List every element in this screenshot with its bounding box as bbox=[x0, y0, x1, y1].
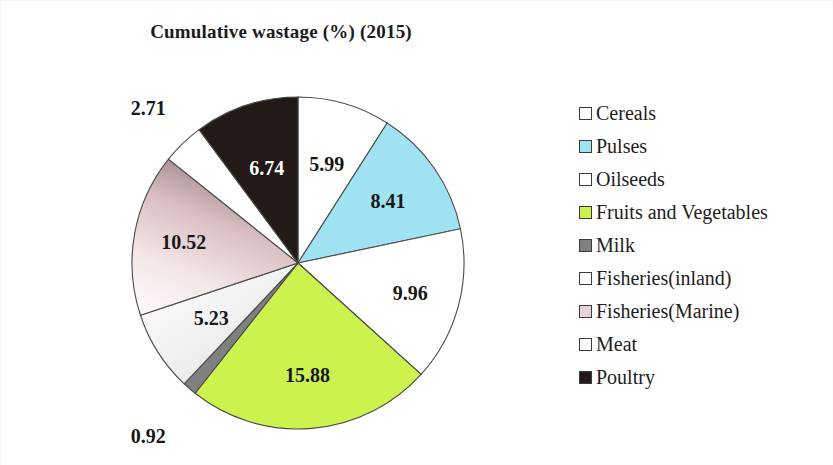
pie-svg bbox=[1, 61, 567, 461]
legend-label: Oilseeds bbox=[596, 163, 665, 196]
legend-item[interactable]: Poultry bbox=[579, 361, 831, 394]
pie-slice-value-label: 0.92 bbox=[131, 425, 166, 448]
legend-item[interactable]: Fruits and Vegetables bbox=[579, 196, 831, 229]
chart-title: Cumulative wastage (%) (2015) bbox=[1, 21, 561, 43]
legend-label: Fisheries(Marine) bbox=[596, 295, 739, 328]
pie-slice-value-label: 5.99 bbox=[309, 153, 344, 176]
legend-label: Cereals bbox=[596, 97, 656, 130]
pie-slice-value-label: 15.88 bbox=[285, 364, 330, 387]
legend-item[interactable]: Cereals bbox=[579, 97, 831, 130]
legend-item[interactable]: Milk bbox=[579, 229, 831, 262]
pie-chart: 5.998.419.9615.880.925.2310.522.716.74 bbox=[1, 61, 567, 461]
legend-swatch-icon bbox=[579, 338, 592, 351]
legend-swatch-icon bbox=[579, 272, 592, 285]
legend-label: Milk bbox=[596, 229, 635, 262]
legend-item[interactable]: Fisheries(inland) bbox=[579, 262, 831, 295]
legend-swatch-icon bbox=[579, 305, 592, 318]
legend-swatch-icon bbox=[579, 371, 592, 384]
legend-swatch-icon bbox=[579, 239, 592, 252]
pie-slice-value-label: 10.52 bbox=[161, 231, 206, 254]
legend-swatch-icon bbox=[579, 173, 592, 186]
legend-swatch-icon bbox=[579, 140, 592, 153]
legend-item[interactable]: Meat bbox=[579, 328, 831, 361]
legend-label: Meat bbox=[596, 328, 637, 361]
legend-item[interactable]: Fisheries(Marine) bbox=[579, 295, 831, 328]
pie-slice-value-label: 5.23 bbox=[194, 307, 229, 330]
legend-item[interactable]: Oilseeds bbox=[579, 163, 831, 196]
legend-label: Poultry bbox=[596, 361, 655, 394]
pie-slice-value-label: 2.71 bbox=[131, 96, 166, 119]
pie-slice-value-label: 9.96 bbox=[393, 282, 428, 305]
legend-swatch-icon bbox=[579, 206, 592, 219]
pie-slice-value-label: 8.41 bbox=[371, 189, 406, 212]
legend-label: Fisheries(inland) bbox=[596, 262, 732, 295]
legend-item[interactable]: Pulses bbox=[579, 130, 831, 163]
legend-label: Fruits and Vegetables bbox=[596, 196, 768, 229]
legend-label: Pulses bbox=[596, 130, 647, 163]
chart-figure: Cumulative wastage (%) (2015) 5.998.419.… bbox=[0, 0, 833, 465]
chart-legend: CerealsPulsesOilseedsFruits and Vegetabl… bbox=[579, 97, 831, 394]
legend-swatch-icon bbox=[579, 107, 592, 120]
pie-slice-value-label: 6.74 bbox=[249, 157, 284, 180]
